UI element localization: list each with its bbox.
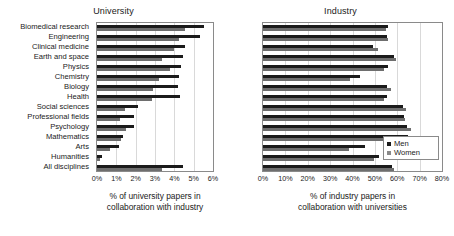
- x-tick-label: 1%: [111, 175, 121, 183]
- bar-women: [263, 68, 384, 71]
- bar-group: [263, 93, 442, 103]
- bar-women: [97, 78, 159, 81]
- bar-women: [263, 128, 411, 131]
- bar-group: [97, 43, 213, 53]
- bar-women: [97, 98, 152, 101]
- bar-group: [263, 73, 442, 83]
- bar-group: [97, 63, 213, 73]
- bar-women: [97, 48, 174, 51]
- legend-label-women: Women: [394, 148, 420, 157]
- bar-group: [263, 83, 442, 93]
- bar-group: [97, 33, 213, 43]
- caption-line-2: collaboration with universities: [217, 202, 454, 213]
- panel-university: University 0%1%2%3%4%5%6% % of universit…: [0, 0, 227, 236]
- bar-group: [97, 113, 213, 123]
- grid-line: [442, 23, 443, 171]
- bar-women: [263, 158, 374, 161]
- legend-item-women: Women: [387, 148, 434, 157]
- legend-swatch-women-icon: [387, 151, 391, 155]
- x-tick-label: 10%: [278, 175, 292, 183]
- grid-line: [213, 23, 214, 171]
- bar-group: [263, 33, 442, 43]
- bar-group: [97, 143, 213, 153]
- x-tick-label: 0%: [92, 175, 102, 183]
- chart-legend: Men Women: [383, 136, 439, 160]
- bar-group: [97, 53, 213, 63]
- chart-title-university: University: [0, 6, 227, 16]
- x-tick-label: 60%: [390, 175, 404, 183]
- bar-women: [97, 88, 153, 91]
- bar-women: [263, 28, 386, 31]
- bar-women: [97, 68, 170, 71]
- x-tick-label: 4%: [169, 175, 179, 183]
- x-tick-label: 0%: [258, 175, 268, 183]
- chart-title-industry: Industry: [227, 6, 454, 16]
- plot-area-university: [96, 22, 214, 172]
- x-tick-label: 3%: [150, 175, 160, 183]
- x-axis-caption-industry: % of industry papers in collaboration wi…: [217, 191, 454, 213]
- bar-women: [97, 118, 120, 121]
- bar-group: [97, 73, 213, 83]
- x-tick-label: 70%: [412, 175, 426, 183]
- x-tick-label: 40%: [345, 175, 359, 183]
- bar-women: [97, 58, 162, 61]
- legend-label-men: Men: [394, 139, 409, 148]
- bar-women: [97, 168, 162, 171]
- bar-women: [263, 108, 406, 111]
- bar-women: [263, 168, 394, 171]
- x-tick-label: 5%: [188, 175, 198, 183]
- bar-group: [263, 113, 442, 123]
- legend-item-men: Men: [387, 139, 434, 148]
- x-tick-label: 50%: [368, 175, 382, 183]
- bar-women: [263, 148, 349, 151]
- bar-women: [263, 98, 384, 101]
- bar-women: [97, 138, 121, 141]
- bar-women: [97, 108, 125, 111]
- bar-women: [263, 58, 396, 61]
- bar-group: [263, 123, 442, 133]
- bar-group: [97, 133, 213, 143]
- bar-women: [263, 48, 378, 51]
- x-tick-label: 20%: [301, 175, 315, 183]
- bar-women: [97, 128, 126, 131]
- x-tick-label: 6%: [208, 175, 218, 183]
- bar-group: [97, 23, 213, 33]
- bar-women: [263, 88, 391, 91]
- bar-group: [263, 103, 442, 113]
- bar-group: [263, 23, 442, 33]
- x-tick-label: 30%: [323, 175, 337, 183]
- chart-figure: Biomedical researchEngineeringClinical m…: [0, 0, 454, 236]
- bar-group: [97, 153, 213, 163]
- caption-line-1: % of industry papers in: [217, 191, 454, 202]
- bar-women: [97, 28, 185, 31]
- bar-group: [263, 63, 442, 73]
- bar-women: [263, 38, 388, 41]
- bar-group: [263, 43, 442, 53]
- x-tick-label: 80%: [435, 175, 449, 183]
- bar-group: [97, 93, 213, 103]
- bar-group: [263, 53, 442, 63]
- bar-women: [97, 158, 100, 161]
- panel-industry: Industry 0%10%20%30%40%50%60%70%80% % of…: [227, 0, 454, 236]
- bar-women: [97, 148, 110, 151]
- bar-group: [97, 83, 213, 93]
- x-tick-label: 2%: [130, 175, 140, 183]
- bar-women: [97, 38, 179, 41]
- bar-group: [97, 103, 213, 113]
- bar-group: [263, 163, 442, 172]
- bar-group: [97, 123, 213, 133]
- bar-women: [263, 118, 405, 121]
- bar-women: [263, 78, 350, 81]
- legend-swatch-men-icon: [387, 142, 391, 146]
- bar-group: [97, 163, 213, 172]
